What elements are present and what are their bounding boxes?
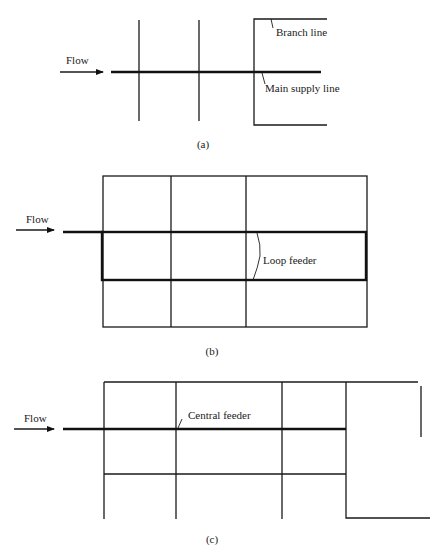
main-supply-line-label: Main supply line xyxy=(265,82,340,94)
loop-feeder xyxy=(102,232,366,280)
loop-feeder-label: Loop feeder xyxy=(263,254,317,266)
flow-label-b: Flow xyxy=(26,213,49,225)
panel-a: Flow Branch line Main supply line (a) xyxy=(60,19,340,151)
caption-b: (b) xyxy=(206,345,219,358)
distribution-system-diagram: Flow Branch line Main supply line (a) Fl… xyxy=(0,0,439,549)
caption-c: (c) xyxy=(206,533,219,546)
central-feeder-leader xyxy=(178,419,182,428)
grid-vertical-4-c xyxy=(346,382,430,518)
branch-line-label: Branch line xyxy=(276,26,327,38)
branch-line-leader xyxy=(271,19,273,28)
flow-label-c: Flow xyxy=(24,412,47,424)
grid-outline-b xyxy=(103,176,367,327)
panel-b: Flow Loop feeder (b) xyxy=(16,176,367,358)
central-feeder-label: Central feeder xyxy=(188,409,251,421)
panel-c: Flow Central feeder (c) xyxy=(14,382,430,546)
flow-label-a: Flow xyxy=(66,54,89,66)
loop-feeder-leader xyxy=(253,233,260,280)
caption-a: (a) xyxy=(197,138,210,151)
